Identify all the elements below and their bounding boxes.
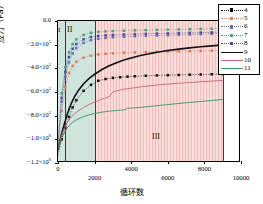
data-point <box>199 28 202 31</box>
x-tick <box>95 161 96 164</box>
y-tick <box>55 68 58 69</box>
y-tick-label: −8.0×105 <box>27 112 51 118</box>
y-tick <box>55 92 58 93</box>
legend-swatch-9 <box>221 48 243 56</box>
data-point <box>123 35 126 38</box>
series-8 <box>58 31 224 145</box>
data-point <box>112 36 115 39</box>
legend-swatch-8 <box>221 40 243 48</box>
x-tick-label: 6000 <box>161 175 174 182</box>
data-point <box>104 30 107 33</box>
y-tick <box>55 116 58 117</box>
data-point <box>64 86 67 89</box>
data-point <box>145 75 148 78</box>
data-point <box>112 52 115 55</box>
data-point <box>210 27 213 30</box>
region-label-iii: III <box>152 132 160 141</box>
data-point <box>64 71 67 74</box>
data-point <box>104 53 107 56</box>
data-point <box>68 72 71 75</box>
series-5 <box>58 49 224 146</box>
data-point <box>134 75 137 78</box>
y-tick-label: −2.0×105 <box>27 41 51 47</box>
legend-item-8[interactable]: 8 <box>221 40 257 48</box>
data-point <box>90 39 93 42</box>
data-point <box>104 78 107 81</box>
figure: 0.0−2.0×105−4.0×105−6.0×105−8.0×105−1.0×… <box>0 0 263 204</box>
data-point <box>145 35 148 38</box>
legend-label-7: 7 <box>243 32 248 39</box>
data-point <box>134 29 137 32</box>
legend-item-9[interactable]: 9 <box>221 48 257 56</box>
legend-item-6[interactable]: 6 <box>221 23 257 31</box>
data-point <box>82 38 85 41</box>
data-point <box>112 77 115 80</box>
data-point <box>126 75 129 78</box>
series-11 <box>58 99 223 148</box>
y-tick-label: −6.0×105 <box>27 88 51 94</box>
x-tick-label: 4000 <box>125 166 138 173</box>
y-tick-label: −4.0×105 <box>27 64 51 70</box>
data-point <box>210 31 213 34</box>
data-point <box>156 32 159 35</box>
data-point <box>189 28 192 31</box>
data-point <box>71 52 74 55</box>
legend-swatch-10 <box>221 57 243 65</box>
legend-item-11[interactable]: 11 <box>221 65 257 73</box>
legend-label-10: 10 <box>243 57 251 64</box>
data-point <box>178 32 181 35</box>
data-point <box>189 50 192 53</box>
y-tick <box>55 139 58 140</box>
data-point <box>189 32 192 35</box>
data-point <box>90 54 93 57</box>
x-tick-label: 10000 <box>233 175 249 182</box>
data-point <box>71 48 74 51</box>
legend: 4567891011 <box>218 4 260 75</box>
legend-label-5: 5 <box>243 15 248 22</box>
plot-area: 0.0−2.0×105−4.0×105−6.0×105−8.0×105−1.0×… <box>57 20 240 162</box>
data-point <box>71 106 74 109</box>
legend-swatch-5 <box>221 15 243 23</box>
data-point <box>210 49 213 52</box>
data-point <box>82 34 85 37</box>
data-point <box>145 33 148 36</box>
data-point <box>178 74 181 77</box>
series-9 <box>58 45 223 150</box>
data-point <box>64 66 67 69</box>
x-tick-label: 2000 <box>88 175 101 182</box>
data-point <box>199 50 202 53</box>
data-point <box>123 29 126 32</box>
legend-label-8: 8 <box>243 40 248 47</box>
region-label-ii: II <box>67 25 72 34</box>
data-point <box>156 74 159 77</box>
legend-item-4[interactable]: 4 <box>221 6 257 14</box>
data-point <box>145 29 148 32</box>
data-point <box>82 42 85 45</box>
data-point <box>82 90 85 93</box>
x-tick <box>204 161 205 164</box>
legend-label-6: 6 <box>243 23 248 30</box>
data-point <box>82 56 85 59</box>
data-point <box>145 51 148 54</box>
data-point <box>178 28 181 31</box>
x-tick-label: 0 <box>56 166 59 173</box>
data-point <box>156 29 159 32</box>
legend-item-5[interactable]: 5 <box>221 14 257 22</box>
y-tick-label: −1.2×106 <box>27 159 51 165</box>
data-point <box>199 73 202 76</box>
legend-item-7[interactable]: 7 <box>221 31 257 39</box>
data-point <box>75 61 78 64</box>
series-curves <box>58 21 239 161</box>
y-tick-label: −1.0×106 <box>27 135 51 141</box>
x-tick <box>131 161 132 164</box>
legend-label-4: 4 <box>243 7 248 14</box>
legend-swatch-4 <box>221 6 243 14</box>
data-point <box>123 33 126 36</box>
y-axis-title: 应力（Pa） <box>0 0 5 62</box>
data-point <box>97 53 100 56</box>
data-point <box>134 35 137 38</box>
y-tick-label: 0.0 <box>43 17 51 23</box>
data-point <box>71 65 74 68</box>
data-point <box>97 31 100 34</box>
legend-item-10[interactable]: 10 <box>221 56 257 64</box>
